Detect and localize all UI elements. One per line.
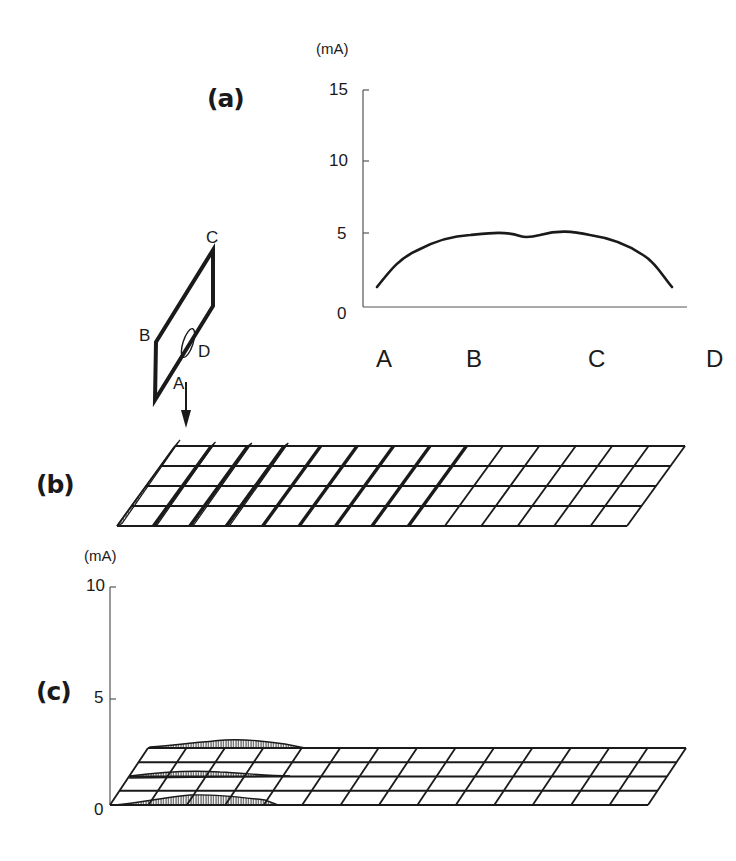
loop-label-d: D [198,342,210,362]
loop-label-a: A [173,374,184,394]
current-bump [150,740,305,748]
panel-a-current-curve [377,232,672,287]
panel-c-label: (c) [36,677,71,706]
current-bump [115,795,278,805]
panel-c-ytick-0: 0 [94,800,103,820]
panel-c-unit: (mA) [84,547,117,564]
panel-c-mesh [110,740,686,805]
panel-c-ytick-10: 10 [86,576,105,596]
loop-label-b: B [139,326,150,346]
panel-c-axes [110,587,116,805]
panel-b-mesh [117,440,685,526]
loop-diagram [155,250,213,428]
panel-b-label: (b) [36,470,74,499]
panel-a-axes [363,90,687,307]
panel-c-ytick-5: 5 [94,688,103,708]
arrow-down-icon [181,410,191,428]
figure-canvas [0,0,736,861]
loop-label-c: C [206,228,218,248]
